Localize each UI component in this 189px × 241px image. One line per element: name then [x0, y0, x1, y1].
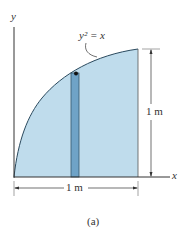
arrowhead-up [150, 49, 153, 54]
arrowhead-right [133, 187, 138, 190]
equation-leader [85, 43, 97, 57]
figure-caption: (a) [87, 215, 99, 227]
x-axis-label: x [172, 169, 177, 181]
y-axis-label: y [11, 10, 16, 22]
figure: y x y² = x 1 m 1 m (a) [0, 0, 189, 241]
arrowhead-left [14, 187, 19, 190]
differential-strip [71, 73, 79, 177]
arrowhead-down [150, 172, 153, 177]
height-dimension-label: 1 m [146, 105, 163, 117]
strip-point [74, 72, 78, 76]
equation-label: y² = x [79, 29, 105, 41]
width-dimension-label: 1 m [66, 181, 83, 193]
